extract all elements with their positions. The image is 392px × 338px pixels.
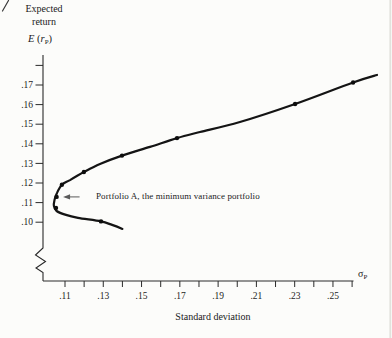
y-tick-label: .15 bbox=[21, 119, 33, 129]
y-tick-label: .10 bbox=[21, 217, 33, 227]
x-symbol-subscript: P bbox=[363, 273, 367, 281]
x-tick-label: .19 bbox=[212, 291, 224, 301]
data-point bbox=[60, 183, 64, 187]
annotation-arrow-head bbox=[63, 194, 70, 199]
corner-mark bbox=[3, 1, 9, 12]
x-axis-title: Standard deviation bbox=[148, 311, 278, 322]
chart-canvas: .17.16.15.14.13.12.11.10.11.13.15.17.19.… bbox=[0, 0, 392, 338]
y-tick-label: .13 bbox=[21, 159, 33, 169]
frontier-curve bbox=[54, 75, 377, 229]
y-axis-title-line1: Expected bbox=[12, 2, 76, 15]
data-point bbox=[82, 170, 86, 174]
data-point bbox=[99, 219, 103, 223]
data-point bbox=[120, 153, 124, 157]
y-tick-label: .17 bbox=[21, 80, 33, 90]
data-point bbox=[54, 195, 58, 199]
y-axis bbox=[36, 55, 46, 281]
figure-minimum-variance-frontier: .17.16.15.14.13.12.11.10.11.13.15.17.19.… bbox=[0, 0, 392, 338]
y-tick-label: .14 bbox=[21, 139, 33, 149]
y-axis-title-line2: return bbox=[12, 15, 76, 28]
x-tick-label: .25 bbox=[327, 291, 339, 301]
x-tick-label: .23 bbox=[289, 291, 301, 301]
y-axis-title: Expected return bbox=[12, 2, 76, 28]
x-tick-label: .13 bbox=[97, 291, 109, 301]
data-point bbox=[293, 102, 297, 106]
x-tick-label: .17 bbox=[174, 291, 186, 301]
data-point bbox=[54, 206, 58, 210]
x-tick-label: .11 bbox=[59, 291, 71, 301]
data-point bbox=[351, 80, 355, 84]
x-axis-symbol: σP bbox=[358, 268, 367, 279]
data-point bbox=[175, 136, 179, 140]
y-axis-symbol: E (rP) bbox=[28, 33, 52, 44]
y-symbol-close-paren: ) bbox=[49, 33, 53, 44]
portfolio-a-annotation: Portfolio A, the minimum variance portfo… bbox=[96, 191, 260, 201]
y-tick-label: .11 bbox=[21, 198, 33, 208]
x-tick-label: .15 bbox=[136, 291, 148, 301]
y-tick-label: .12 bbox=[21, 178, 33, 188]
x-tick-label: .21 bbox=[250, 291, 262, 301]
y-tick-label: .16 bbox=[21, 100, 33, 110]
